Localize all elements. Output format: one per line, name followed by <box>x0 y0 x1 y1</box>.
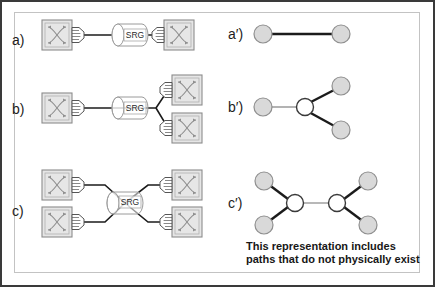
fiber-connector-icon <box>72 28 84 43</box>
optical-switch-icon <box>42 170 72 200</box>
fiber-connector-icon <box>160 121 172 136</box>
caption-line-1: This representation includes <box>246 240 426 253</box>
figure-root: SRG <box>0 0 435 287</box>
logical-endpoint-node <box>359 172 377 190</box>
row-label-c-prime: c′) <box>228 195 242 211</box>
caption-line-2: paths that do not physically exist <box>246 253 426 266</box>
row-label-b: b) <box>12 101 24 117</box>
logical-endpoint-node <box>255 216 273 234</box>
optical-switch-icon <box>172 207 202 237</box>
logical-endpoint-node <box>332 77 350 95</box>
optical-switch-icon <box>42 207 72 237</box>
optical-switch-icon <box>164 20 194 50</box>
logical-endpoint-node <box>359 216 377 234</box>
fiber-connector-icon <box>160 178 172 193</box>
fiber-connector-icon <box>152 28 164 43</box>
optical-switch-icon <box>172 113 202 143</box>
fiber-connector-icon <box>72 101 84 116</box>
logical-endpoint-node <box>254 98 272 116</box>
logical-junction-node <box>329 195 346 212</box>
srg-cylinder-icon: SRG <box>112 24 148 46</box>
logical-endpoint-node <box>332 25 350 43</box>
physical-row-c: SRG <box>42 170 202 237</box>
logical-row-c-prime <box>255 172 377 234</box>
logical-endpoint-node <box>255 172 273 190</box>
optical-switch-icon <box>42 20 72 50</box>
optical-switch-icon <box>172 75 202 105</box>
logical-row-a-prime <box>254 25 350 43</box>
srg-cylinder-icon: SRG <box>107 192 143 214</box>
optical-switch-icon <box>42 93 72 123</box>
fiber-connector-icon <box>160 83 172 98</box>
logical-endpoint-node <box>332 121 350 139</box>
srg-label: SRG <box>126 30 144 40</box>
srg-label: SRG <box>121 197 139 207</box>
srg-cylinder-icon: SRG <box>112 97 148 119</box>
row-label-a-prime: a′) <box>228 26 243 42</box>
row-label-c: c) <box>12 203 24 219</box>
row-label-a: a) <box>12 32 24 48</box>
fiber-connector-icon <box>160 215 172 230</box>
logical-junction-node <box>297 99 314 116</box>
caption: This representation includes paths that … <box>246 240 426 266</box>
fiber-connector-icon <box>72 178 84 193</box>
physical-row-a: SRG <box>42 20 194 50</box>
fiber-connector-icon <box>72 215 84 230</box>
srg-label: SRG <box>126 103 144 113</box>
logical-junction-node <box>287 195 304 212</box>
row-label-b-prime: b′) <box>228 99 243 115</box>
optical-switch-icon <box>172 170 202 200</box>
logical-endpoint-node <box>254 25 272 43</box>
physical-row-b: SRG <box>42 75 202 143</box>
logical-row-b-prime <box>254 77 350 139</box>
